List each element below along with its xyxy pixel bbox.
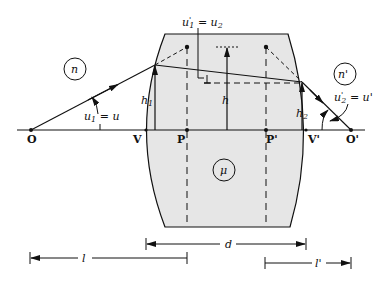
principal-point-back-top: [264, 45, 268, 49]
label-o-prime: O': [346, 133, 359, 146]
medium-mu-label: μ: [220, 164, 227, 177]
label-h: h: [222, 94, 229, 107]
label-l-prime: l': [315, 257, 322, 270]
label-h2: h2: [296, 107, 308, 121]
label-u2-prime: u'2 = u': [334, 90, 373, 105]
ray-emergent-arrow: [310, 90, 323, 103]
medium-n-label: n: [71, 63, 78, 76]
point-v: [144, 128, 147, 131]
medium-n-prime-label: n': [338, 68, 348, 81]
label-u1-prime: u'1 = u2: [182, 15, 223, 30]
label-l: l: [82, 252, 86, 265]
point-p-prime: [264, 128, 268, 132]
principal-point-front-top: [185, 45, 189, 49]
point-p: [185, 128, 189, 132]
thick-lens-diagram: O V P P' V' O' n n' μ h1 h h2 u1 = u u'1…: [0, 0, 381, 283]
point-o-prime: [349, 128, 353, 132]
label-v: V: [132, 133, 142, 146]
label-u1: u1 = u: [84, 110, 119, 124]
angle-u2p-arc: [322, 110, 328, 130]
label-v-prime: V': [307, 133, 320, 146]
label-o: O: [27, 133, 37, 146]
label-p: P: [177, 133, 185, 146]
label-p-prime: P': [266, 133, 278, 146]
point-v-prime: [304, 128, 307, 131]
label-d: d: [225, 238, 232, 251]
point-o: [29, 128, 33, 132]
ray-emergent: [302, 82, 351, 130]
